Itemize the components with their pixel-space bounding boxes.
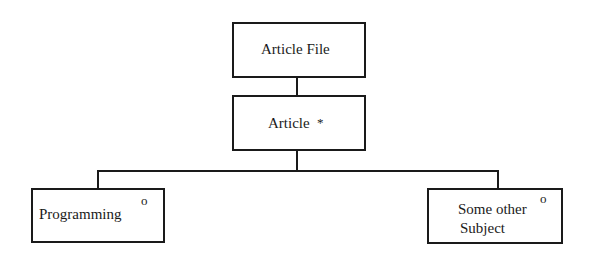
connector-to-other-subject [497, 170, 499, 189]
repeat-marker: * [317, 116, 324, 129]
node-label-line1: Some other [458, 200, 527, 218]
connector-file-to-article [296, 77, 298, 95]
node-label: Article [268, 114, 310, 132]
node-label: Programming [39, 205, 122, 223]
node-programming: Programming o [31, 188, 165, 243]
node-article: Article * [232, 95, 366, 151]
node-some-other-subject: Some other Subject o [427, 188, 563, 244]
node-label-line2: Subject [460, 219, 505, 237]
connector-to-programming [97, 170, 99, 189]
selection-marker: o [141, 194, 148, 207]
node-label: Article File [261, 40, 330, 58]
node-article-file: Article File [232, 22, 366, 78]
connector-horizontal [97, 170, 499, 172]
selection-marker: o [540, 192, 547, 205]
connector-article-down [296, 150, 298, 172]
